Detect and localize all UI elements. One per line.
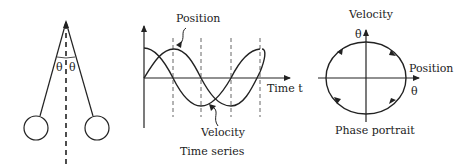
figure-canvas: θ θ Position Velocity Time t Time series: [0, 0, 465, 166]
left-bob: [24, 116, 48, 140]
phase-portrait-caption: Phase portrait: [335, 124, 415, 137]
time-series-caption: Time series: [180, 145, 245, 158]
pendulum-figure: θ θ Position Velocity Time t Time series: [0, 0, 465, 166]
position-title: Position: [409, 62, 453, 75]
velocity-symbol: θ̇: [355, 28, 362, 41]
phase-portrait: Velocity θ̇ Position θ Phase portrait: [318, 8, 453, 137]
velocity-label: Velocity: [200, 126, 246, 139]
time-axis-label: Time t: [267, 82, 303, 95]
angle-arc: [57, 57, 75, 58]
orbit-direction-arrows: [334, 48, 396, 104]
position-symbol: θ: [411, 85, 418, 98]
right-bob: [85, 116, 109, 140]
velocity-title: Velocity: [348, 8, 394, 21]
angle-left-label: θ: [56, 61, 63, 74]
velocity-pointer: [213, 107, 218, 126]
time-series-plot: Position Velocity Time t Time series: [144, 12, 303, 158]
velocity-curve: [144, 48, 260, 106]
angle-right-label: θ: [69, 61, 76, 74]
position-arrowhead-icon: [176, 41, 182, 48]
arrow-top-left-icon: [337, 48, 343, 55]
velocity-arrowhead-icon: [209, 104, 216, 111]
position-pointer: [180, 28, 186, 44]
pendulum-diagram: θ θ: [24, 20, 109, 164]
position-label: Position: [176, 12, 220, 25]
